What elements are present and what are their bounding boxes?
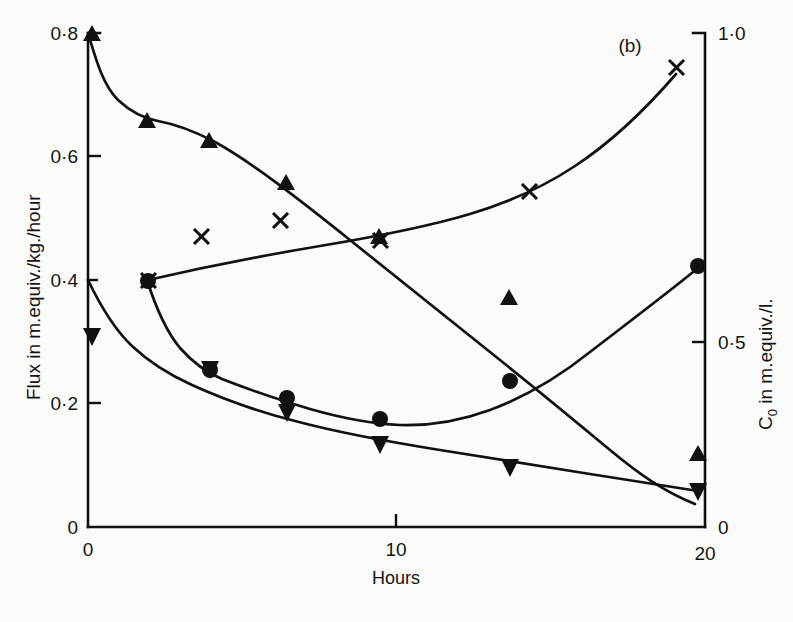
panel-label: (b)	[618, 35, 641, 56]
series-line-cross	[148, 74, 676, 280]
y2-title-subscript: 0	[765, 409, 780, 416]
y-axis-title: Flux in m.equiv./kg./hour	[23, 194, 44, 400]
ytick-label-0-6: 0·6	[51, 146, 78, 167]
ytick-label-0-8: 0·8	[51, 23, 78, 44]
x-axis-title: Hours	[372, 568, 420, 588]
y2-axis-title: C0 in m.equiv./l.	[755, 299, 780, 431]
series-markers-down-triangle	[83, 328, 707, 501]
series-line-up-triangle	[88, 33, 695, 504]
xtick-label-20: 20	[694, 543, 715, 564]
svg-text:C0 in m.equiv./l.: C0 in m.equiv./l.	[755, 299, 780, 431]
series-markers-circle	[140, 258, 706, 427]
y2tick-label-0-5: 0·5	[718, 332, 745, 353]
ytick-label-0-2: 0·2	[51, 393, 78, 414]
series-markers-cross	[141, 60, 684, 288]
xtick-label-0: 0	[83, 539, 94, 560]
y2tick-label-1-0: 1·0	[718, 23, 745, 44]
xtick-label-10: 10	[385, 539, 406, 560]
series-line-down-triangle	[88, 280, 698, 491]
series-markers-up-triangle	[83, 25, 707, 461]
ytick-label-0: 0	[67, 517, 78, 538]
figure-panel-b: 0·8 0·6 0·4 0·2 0 1·0 0·5 0 0 10 20 Hour…	[0, 0, 793, 622]
y2-title-suffix: in m.equiv./l.	[755, 299, 776, 410]
ytick-label-0-4: 0·4	[51, 270, 79, 291]
y2tick-label-0: 0	[718, 517, 729, 538]
y2-title-prefix: C	[755, 416, 776, 430]
chart-canvas: 0·8 0·6 0·4 0·2 0 1·0 0·5 0 0 10 20 Hour…	[0, 0, 793, 622]
